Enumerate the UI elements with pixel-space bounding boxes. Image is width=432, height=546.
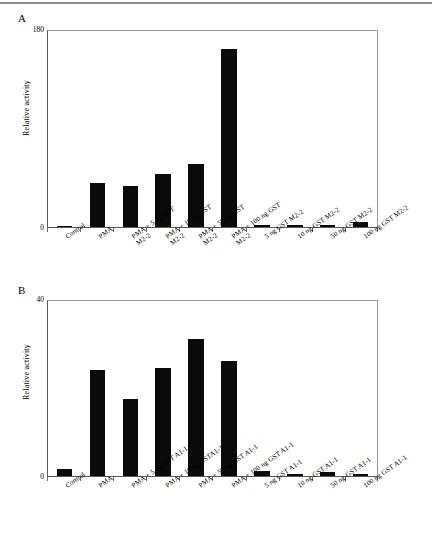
- panel-a-y-tick-max: 180: [26, 25, 44, 34]
- bar-cell: [180, 31, 213, 227]
- bar-cell: [311, 301, 344, 476]
- panel-b-y-tick-min: 0: [30, 472, 44, 481]
- bar: [57, 226, 72, 227]
- bar-cell: [81, 31, 114, 227]
- bar: [123, 186, 138, 227]
- panel-b-y-tick-max: 40: [26, 295, 44, 304]
- panel-a-y-tick-min: 0: [30, 223, 44, 232]
- bar: [90, 370, 105, 476]
- bar-cell: [213, 31, 246, 227]
- bar-cell: [114, 31, 147, 227]
- bar-cell: [344, 31, 377, 227]
- panel-a: A Relative activity 180 0 ControlPMAPMA …: [0, 10, 432, 280]
- bar-cell: [114, 301, 147, 476]
- bar-cell: [311, 31, 344, 227]
- panel-b-letter: B: [18, 284, 26, 296]
- bar-cell: [48, 31, 81, 227]
- bar-cell: [147, 31, 180, 227]
- bar: [57, 469, 72, 476]
- bar-cell: [245, 31, 278, 227]
- panel-a-letter: A: [18, 12, 26, 24]
- bar: [90, 183, 105, 227]
- bar: [287, 225, 302, 227]
- panel-b: B Relative activity 40 0 ControlPMAPMA +…: [0, 282, 432, 546]
- bar-cell: [81, 301, 114, 476]
- panel-a-y-axis-label: Relative activity: [22, 80, 31, 136]
- bar-cell: [147, 301, 180, 476]
- bar: [320, 225, 335, 227]
- panel-a-bars: [48, 31, 377, 227]
- bar-cell: [48, 301, 81, 476]
- panel-a-plot-area: [47, 30, 378, 228]
- bar: [123, 399, 138, 476]
- page-top-rule: [0, 2, 432, 4]
- panel-b-y-axis-label: Relative activity: [22, 344, 31, 400]
- bar-cell: [278, 31, 311, 227]
- bar: [221, 49, 236, 227]
- bar-cell: [344, 301, 377, 476]
- panel-b-x-labels: ControlPMAPMA + 5 ng GST A1-1PMA + 10 ng…: [47, 481, 432, 546]
